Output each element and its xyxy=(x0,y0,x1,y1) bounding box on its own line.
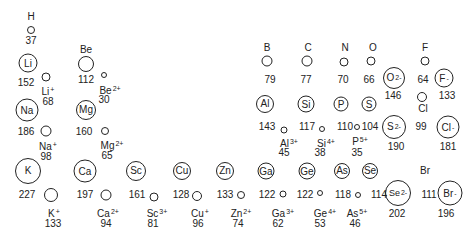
f-label: F xyxy=(422,42,428,53)
li-atom-circle: Li xyxy=(19,54,38,73)
si-ion-circle xyxy=(319,126,325,132)
ca-ion-circle xyxy=(101,190,112,201)
be-ion-radius: 30 xyxy=(98,94,109,105)
na-ion-radius: 98 xyxy=(40,151,51,162)
be-ion-circle xyxy=(101,72,107,78)
o-anion-circle: O2- xyxy=(383,67,405,89)
al-ion-circle xyxy=(281,127,288,134)
na-ion-circle xyxy=(41,126,52,137)
mg-atom-circle: Mg xyxy=(76,100,96,120)
ca-ion-radius: 94 xyxy=(100,218,111,229)
ca-radius: 197 xyxy=(77,189,94,200)
o-atom-circle xyxy=(367,57,376,66)
ge-radius: 122 xyxy=(297,189,314,200)
be-atom-circle xyxy=(78,56,94,72)
o-anion-radius: 146 xyxy=(385,90,402,101)
sc-atom-circle: Sc xyxy=(126,161,146,181)
cl-anion-radius: 181 xyxy=(440,141,457,152)
zn-ion-radius: 74 xyxy=(232,218,243,229)
na-atom-circle: Na xyxy=(16,99,39,122)
s-anion-circle: S2- xyxy=(382,115,406,139)
al-radius: 143 xyxy=(259,121,276,132)
se-anion-circle: Se2- xyxy=(385,180,411,206)
ga-radius: 122 xyxy=(259,189,276,200)
cl-anion-circle: Cl- xyxy=(437,116,460,139)
o-radius: 66 xyxy=(363,74,374,85)
h-radius: 37 xyxy=(25,35,36,46)
se-anion-radius: 202 xyxy=(389,208,406,219)
ge-atom-circle: Ge xyxy=(299,163,316,180)
ga-atom-circle: Ga xyxy=(258,163,275,180)
f-anion-circle: F- xyxy=(435,69,454,88)
p-ion-label: P5+ xyxy=(352,134,368,147)
b-atom-circle xyxy=(262,56,273,67)
radii-diagram: H 37 Li 152 Li+ 68 Be 112 Be2+ 30 Na 186… xyxy=(0,0,470,244)
ca-atom-circle: Ca xyxy=(74,160,97,183)
cu-ion-radius: 96 xyxy=(192,218,203,229)
f-radius: 64 xyxy=(417,74,428,85)
cu-ion-circle xyxy=(192,191,202,201)
n-radius: 70 xyxy=(337,74,348,85)
as-ion-circle xyxy=(355,192,361,198)
be-label: Be xyxy=(80,44,92,55)
b-radius: 79 xyxy=(264,74,275,85)
b-label: B xyxy=(264,42,271,53)
si-ion-radius: 38 xyxy=(314,147,325,158)
c-atom-circle xyxy=(302,56,313,67)
li-ion-circle xyxy=(42,73,51,82)
si-atom-circle: Si xyxy=(298,96,315,113)
as-radius: 118 xyxy=(335,189,351,200)
h-label: H xyxy=(27,11,34,22)
k-atom-circle: K xyxy=(15,158,41,184)
s-radius: 104 xyxy=(362,121,379,132)
mg-ion-radius: 65 xyxy=(101,150,112,161)
p-atom-circle: P xyxy=(334,97,349,112)
ge-ion-radius: 53 xyxy=(314,218,325,229)
br-label: Br xyxy=(420,165,430,176)
cl-atom-circle xyxy=(417,92,427,102)
mg-ion-circle xyxy=(101,127,109,135)
n-atom-circle xyxy=(340,58,349,67)
zn-ion-circle xyxy=(237,191,245,199)
p-ion-circle xyxy=(354,124,360,130)
mg-radius: 160 xyxy=(76,126,93,137)
s-anion-radius: 190 xyxy=(388,141,405,152)
zn-atom-circle: Zn xyxy=(216,162,234,180)
cu-radius: 128 xyxy=(173,189,190,200)
na-radius: 186 xyxy=(18,126,35,137)
ga-ion-circle xyxy=(280,191,287,198)
br-anion-circle: Br- xyxy=(438,181,463,206)
f-anion-radius: 133 xyxy=(439,90,456,101)
ge-ion-circle xyxy=(317,190,323,196)
zn-radius: 133 xyxy=(217,189,234,200)
cl-radius: 99 xyxy=(415,121,426,132)
k-radius: 227 xyxy=(19,189,36,200)
si-radius: 117 xyxy=(299,121,315,132)
p-radius: 110 xyxy=(337,121,353,132)
br-anion-radius: 196 xyxy=(438,208,455,219)
al-atom-circle: Al xyxy=(256,95,274,113)
f-atom-circle xyxy=(421,57,430,66)
al-ion-radius: 45 xyxy=(278,147,289,158)
li-radius: 152 xyxy=(18,77,35,88)
sc-radius: 161 xyxy=(129,189,146,200)
cl-label: Cl xyxy=(418,103,427,114)
se-atom-circle: Se xyxy=(362,163,378,179)
k-ion-circle xyxy=(44,188,58,202)
c-radius: 77 xyxy=(300,74,311,85)
c-label: C xyxy=(304,42,311,53)
n-label: N xyxy=(341,42,348,53)
k-ion-radius: 133 xyxy=(45,218,62,229)
o-label: O xyxy=(369,42,377,53)
h-atom-circle xyxy=(27,26,35,34)
s-atom-circle: S xyxy=(362,97,377,112)
sc-ion-radius: 81 xyxy=(147,218,158,229)
be-radius: 112 xyxy=(78,74,94,85)
sc-ion-circle xyxy=(150,193,159,202)
br-radius: 111 xyxy=(421,189,436,200)
li-ion-radius: 68 xyxy=(42,96,53,107)
as-atom-circle: As xyxy=(334,163,350,179)
p-ion-radius: 35 xyxy=(351,147,362,158)
cu-atom-circle: Cu xyxy=(173,162,191,180)
ga-ion-radius: 62 xyxy=(272,218,283,229)
